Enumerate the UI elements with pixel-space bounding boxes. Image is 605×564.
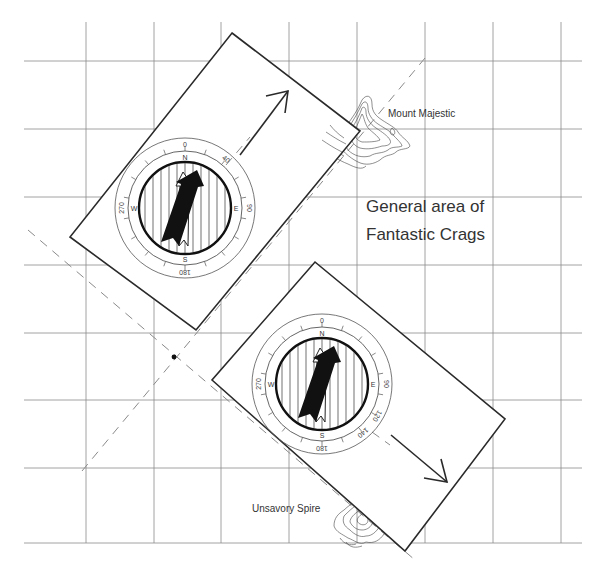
cardinal-e: E xyxy=(234,205,239,212)
dial-number: 180 xyxy=(179,269,191,276)
cardinal-e: E xyxy=(371,381,376,388)
dial-number: 180 xyxy=(316,445,328,452)
general-area-label-line2: Fantastic Crags xyxy=(366,225,485,244)
cardinal-w: W xyxy=(131,205,138,212)
cardinal-n: N xyxy=(319,330,324,337)
dial-number: 270 xyxy=(255,378,262,390)
intersection-point xyxy=(172,355,177,360)
cardinal-n: N xyxy=(182,154,187,161)
dial-number: 270 xyxy=(118,202,125,214)
cardinal-s: S xyxy=(183,256,188,263)
dial-number: 90 xyxy=(246,204,253,212)
general-area-label-line1: General area of xyxy=(366,197,484,216)
unsavory-spire-label: Unsavory Spire xyxy=(252,503,321,514)
dial-number: 90 xyxy=(383,380,390,388)
cardinal-s: S xyxy=(320,432,325,439)
cardinal-w: W xyxy=(268,381,275,388)
dial-number: 0 xyxy=(183,141,187,148)
map-diagram: 04090180270NESW 090120140180270NESW Moun… xyxy=(0,0,605,564)
mount-majestic-label: Mount Majestic xyxy=(388,108,455,119)
dial-number: 0 xyxy=(320,317,324,324)
